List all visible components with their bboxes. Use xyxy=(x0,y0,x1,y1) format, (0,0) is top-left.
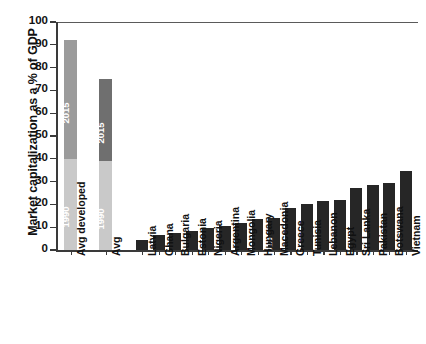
x-tick-mark xyxy=(208,250,209,255)
x-tick-mark xyxy=(373,250,374,255)
bar[interactable]: 19902015 xyxy=(99,79,112,250)
x-axis-label: Pakistan xyxy=(377,213,389,256)
x-tick-mark xyxy=(406,250,407,255)
x-tick-mark xyxy=(192,250,193,255)
x-tick-mark xyxy=(241,250,242,255)
segment-year-label: 2015 xyxy=(99,122,106,143)
x-tick-mark xyxy=(175,250,176,255)
x-axis-label: Bulgaria xyxy=(179,214,191,256)
x-tick-mark xyxy=(356,250,357,255)
x-axis-label: Mongolia xyxy=(245,210,257,256)
plot-top-rule xyxy=(56,22,418,23)
y-tick-mark xyxy=(50,113,56,114)
chart-container: Market capitalization as a % of GDP 1009… xyxy=(0,0,426,344)
y-tick-label: 80 xyxy=(18,60,48,72)
x-axis-label: Vietnam xyxy=(410,215,422,256)
x-tick-mark xyxy=(106,250,107,255)
x-axis-label: Botswana xyxy=(393,206,405,256)
y-tick-label: 10 xyxy=(18,219,48,231)
x-axis-label: Egypt xyxy=(344,227,356,256)
x-axis-label: Macedonia xyxy=(278,202,290,256)
y-tick-label: 100 xyxy=(18,14,48,26)
x-tick-mark xyxy=(323,250,324,255)
x-tick-mark xyxy=(307,250,308,255)
y-tick-mark xyxy=(50,227,56,228)
y-tick-mark xyxy=(50,249,56,250)
bar-segment: 2015 xyxy=(64,40,77,159)
y-tick-label: 30 xyxy=(18,174,48,186)
y-tick-mark xyxy=(50,21,56,22)
x-tick-mark xyxy=(258,250,259,255)
y-tick-mark xyxy=(50,158,56,159)
y-tick-label: 90 xyxy=(18,37,48,49)
x-axis-label: Greece xyxy=(294,220,306,256)
x-axis-label: Latvia xyxy=(146,226,158,256)
x-axis-label: Nigeria xyxy=(212,220,224,256)
y-tick-mark xyxy=(50,90,56,91)
bar-segment: 2015 xyxy=(99,79,112,161)
x-axis-label: Ghana xyxy=(163,223,175,256)
y-tick-mark xyxy=(50,204,56,205)
y-tick-label: 60 xyxy=(18,105,48,117)
x-tick-mark xyxy=(274,250,275,255)
y-tick-label: 50 xyxy=(18,128,48,140)
x-axis-label: Tunisia xyxy=(311,220,323,256)
y-tick-mark xyxy=(50,67,56,68)
y-tick-label: 40 xyxy=(18,151,48,163)
y-tick-label: 70 xyxy=(18,82,48,94)
segment-year-label: 2015 xyxy=(64,102,71,123)
x-axis-label: Argentina xyxy=(229,207,241,256)
x-axis-label: Avg developed xyxy=(75,182,87,256)
x-axis-label: Lebanon xyxy=(327,212,339,256)
x-axis-label: Avg xyxy=(110,237,122,256)
y-tick-label: 20 xyxy=(18,196,48,208)
y-tick-mark xyxy=(50,135,56,136)
x-tick-mark xyxy=(340,250,341,255)
x-tick-mark xyxy=(290,250,291,255)
x-tick-mark xyxy=(142,250,143,255)
y-axis-line xyxy=(56,22,58,250)
x-axis-label: Estonia xyxy=(196,218,208,256)
segment-year-label: 1990 xyxy=(99,208,106,229)
x-tick-mark xyxy=(389,250,390,255)
x-tick-mark xyxy=(71,250,72,255)
y-tick-label: 0 xyxy=(18,242,48,254)
segment-year-label: 1990 xyxy=(64,207,71,228)
x-axis-label: Hungary xyxy=(262,213,274,256)
x-tick-mark xyxy=(225,250,226,255)
x-axis-label: Sri Lanka xyxy=(360,209,372,256)
y-tick-mark xyxy=(50,44,56,45)
y-tick-mark xyxy=(50,181,56,182)
x-tick-mark xyxy=(159,250,160,255)
